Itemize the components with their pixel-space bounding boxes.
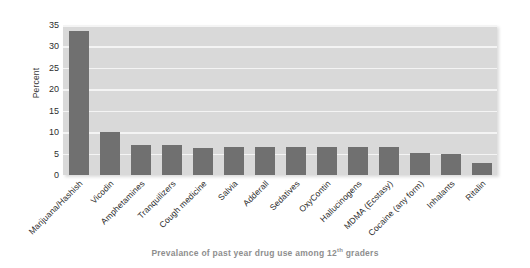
chart-caption: Prevalance of past year drug use among 1… xyxy=(0,247,530,258)
bars-group xyxy=(63,25,497,175)
y-axis-tick-label: 5 xyxy=(33,149,59,158)
bar xyxy=(131,145,151,175)
bar xyxy=(224,147,244,175)
x-axis-tick-label-text: Adderall xyxy=(240,177,271,208)
bar xyxy=(193,148,213,175)
bar xyxy=(162,145,182,175)
bar xyxy=(441,154,461,175)
bar xyxy=(100,132,120,175)
bar xyxy=(410,153,430,175)
plot-area xyxy=(63,25,497,175)
x-axis-tick-label-text: Marijuana/Hashish xyxy=(26,177,85,236)
x-axis-tick-label-text: Ritalin xyxy=(463,177,489,203)
x-axis-tick-label-text: Cocaine (any form) xyxy=(366,177,427,238)
y-axis-tick-label: 25 xyxy=(33,63,59,72)
bar xyxy=(379,147,399,175)
caption-text: Prevalance of past year drug use among 1… xyxy=(151,248,337,258)
y-axis-tick-label: 35 xyxy=(33,21,59,30)
bar-chart: Percent 05101520253035 Marijuana/Hashish… xyxy=(0,0,530,268)
x-axis-tick-label-text: Vicodin xyxy=(88,177,117,206)
bar xyxy=(69,31,89,175)
y-axis-tick-label: 15 xyxy=(33,106,59,115)
x-axis-tick-label-text: Salvia xyxy=(215,177,240,202)
bar xyxy=(317,147,337,175)
caption-text-suffix: graders xyxy=(343,248,379,258)
y-axis-tick-label: 30 xyxy=(33,42,59,51)
bar xyxy=(472,163,492,175)
bar xyxy=(348,147,368,175)
bar xyxy=(255,147,275,175)
y-axis-tick-label: 20 xyxy=(33,85,59,94)
x-axis-tick-labels: Marijuana/HashishVicodinAmphetaminesTran… xyxy=(63,177,497,249)
bar xyxy=(286,147,306,175)
y-axis-tick-label: 0 xyxy=(33,171,59,180)
y-axis-tick-labels: 05101520253035 xyxy=(33,25,59,175)
y-axis-tick-label: 10 xyxy=(33,128,59,137)
